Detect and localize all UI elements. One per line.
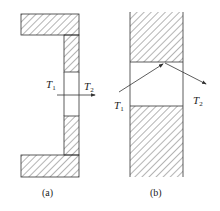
caption-b: (b) [150,187,162,199]
wall-vertical-upper-a [64,35,79,72]
caption-a: (a) [42,187,53,199]
t2-label-a: T2 [84,80,94,94]
wall-upper-b [130,12,183,62]
wall-vertical-lower-a [64,116,79,155]
t2-label-b: T2 [193,94,203,108]
wall-top-a [21,14,79,35]
panel-a: T1 T2 (a) [21,14,95,199]
t1-label-a: T1 [46,78,56,92]
panel-b: T1 T2 (b) [114,12,206,199]
reflected-ray-b [165,63,206,84]
incident-ray-b [119,64,163,92]
wall-bottom-a [21,155,79,177]
wall-lower-b [130,106,183,177]
t1-label-b: T1 [114,99,124,113]
figure: T1 T2 (a) T1 T2 (b) [0,0,220,211]
